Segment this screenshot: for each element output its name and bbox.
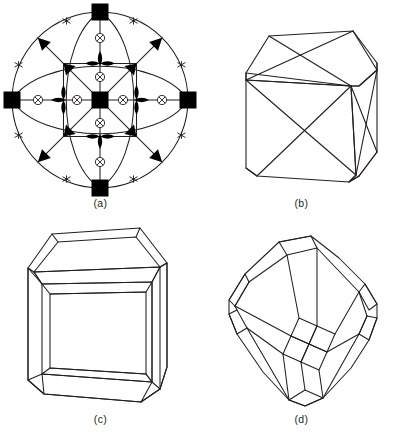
bottom-bevel-band: [42, 374, 152, 402]
central-square-face-4: [309, 326, 335, 352]
asterisk-wsw: [15, 132, 23, 139]
corner-bevel-lower-right: [141, 389, 160, 402]
panel-d-caption: (d): [201, 413, 402, 425]
two-fold-lens-left-upper: [61, 85, 65, 100]
hexagon-edge-left-upper: [235, 282, 249, 306]
edge-centre-to-bottom-far-left: [283, 354, 289, 400]
two-fold-lens-left-lower: [61, 100, 65, 115]
cube-front-face: [246, 80, 356, 182]
bevelled-cube-drawing: [0, 222, 201, 422]
panel-b-caption: (b): [201, 197, 402, 209]
crossed-circle-n-outer: [95, 33, 104, 42]
truncated-octahedron-edges: [229, 236, 377, 406]
figure-container: (a): [0, 0, 403, 445]
central-square-face-2: [283, 336, 309, 362]
four-fold-square-east: [180, 92, 197, 109]
cube-top-face: [34, 267, 160, 284]
panel-a-caption: (a): [0, 197, 201, 209]
crossed-circle-e-inner: [118, 95, 127, 104]
corner-bevel-top-right: [136, 228, 140, 237]
truncation-right-lower: [359, 152, 377, 176]
crossed-circle-w-outer: [33, 95, 42, 104]
stereographic-projection-diagram: [0, 0, 201, 200]
bevelled-cube-edges: [28, 228, 167, 402]
hexagon-edge-left-bottom: [247, 328, 289, 400]
edge-centre-to-left-lower: [247, 328, 283, 354]
asterisk-sse: [130, 175, 138, 182]
panel-a-stereogram: (a): [0, 0, 201, 222]
top-face-diagonal-4: [353, 31, 377, 70]
corner-bevel-top-left: [52, 234, 58, 242]
four-fold-square-north: [92, 4, 109, 21]
top-bevel-band: [34, 237, 160, 272]
cube-top-face: [246, 31, 377, 86]
crossed-circle-n-inner: [95, 72, 104, 81]
panel-c-caption: (c): [0, 413, 201, 425]
two-fold-lens-diag-ne: [100, 61, 115, 65]
bevel-join-upper-left: [34, 272, 42, 284]
corner-bevel-upper-right: [160, 263, 167, 267]
right-face-diagonal-1: [351, 86, 377, 152]
left-square-face: [229, 274, 249, 306]
truncated-cube-edges: [246, 31, 377, 182]
top-face-diagonal-2: [269, 36, 351, 86]
truncated-cube-drawing: [201, 0, 402, 200]
asterisk-ssw: [63, 175, 71, 182]
central-square-face-1: [291, 318, 317, 344]
two-fold-lens-diag-sw: [85, 134, 100, 138]
right-square-face-upper: [359, 284, 377, 310]
crossed-circle-e-outer: [157, 95, 166, 104]
two-fold-lens-diag-nw: [85, 61, 100, 65]
top-face-diagonal-3: [246, 31, 353, 80]
hexagon-edge-top-right: [317, 248, 359, 292]
two-fold-lens-right-upper: [134, 85, 138, 100]
hexagon-edge-right-mid: [359, 316, 367, 334]
front-face-diagonal-1: [246, 80, 356, 175]
asterisk-nnw: [63, 17, 71, 24]
panel-d-truncated-octahedron: (d): [201, 222, 402, 444]
edge-centre-to-right-upper: [335, 292, 359, 334]
cube-right-face: [349, 70, 377, 182]
edge-centre-to-bottom-right: [319, 370, 323, 398]
top-square-face: [279, 236, 317, 255]
crossed-circle-s-inner: [95, 118, 104, 127]
top-face-diagonal-1: [246, 73, 351, 86]
crossed-circle-w-inner: [72, 95, 81, 104]
truncation-lower-left: [246, 168, 257, 176]
two-fold-lens-diag-se: [100, 134, 115, 138]
corner-bevel-lower-left: [28, 380, 44, 394]
panel-b-truncated-cube: (b): [201, 0, 402, 222]
asterisk-wnw: [15, 61, 23, 68]
truncated-octahedron-drawing: [201, 222, 402, 422]
panel-c-bevelled-cube: (c): [0, 222, 201, 444]
hexagon-edge-top-left: [249, 255, 287, 282]
four-fold-square-south: [92, 180, 109, 197]
left-square-face-lower: [229, 310, 247, 334]
two-fold-lens-right-lower: [134, 100, 138, 115]
bevel-join-lower-right: [146, 374, 152, 382]
central-square-face-3: [301, 344, 327, 370]
edge-centre-to-top-left: [287, 255, 299, 318]
asterisk-ene: [177, 61, 185, 68]
octahedron-silhouette: [229, 236, 377, 406]
four-fold-square-centre: [92, 92, 109, 109]
bottom-square-face: [289, 390, 323, 406]
asterisk-ese: [177, 132, 185, 139]
asterisk-nne: [130, 17, 138, 24]
four-fold-square-west: [4, 92, 21, 109]
edge-centre-to-bottom-left: [301, 362, 305, 390]
crossed-circle-s-outer: [95, 157, 104, 166]
front-face-diagonal-2: [257, 86, 351, 176]
cube-front-face: [50, 292, 146, 374]
front-left-bevel: [28, 268, 42, 380]
